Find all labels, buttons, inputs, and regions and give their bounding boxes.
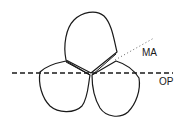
- op-label: OP: [159, 77, 173, 87]
- three-lobe-diagram: [0, 0, 189, 125]
- ma-label: MA: [142, 48, 157, 58]
- lobe-top: [65, 12, 117, 73]
